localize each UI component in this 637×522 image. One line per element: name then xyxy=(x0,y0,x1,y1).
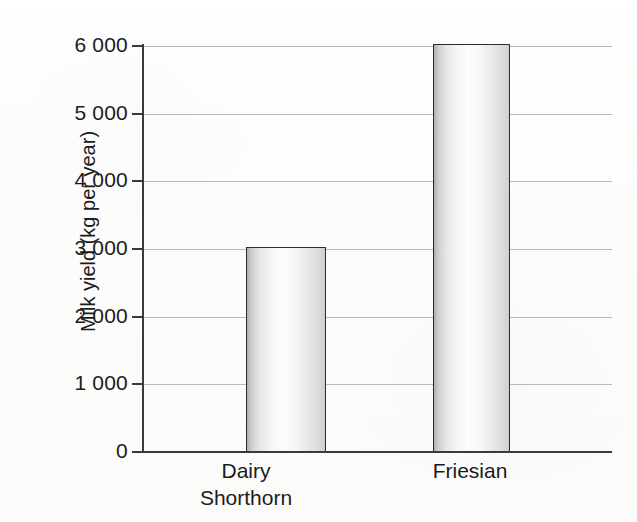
y-tick-mark-5000 xyxy=(132,113,143,115)
x-category-label-line-1: Friesian xyxy=(410,458,530,485)
x-category-label-line-1: Dairy xyxy=(186,458,306,485)
y-tick-mark-2000 xyxy=(132,316,143,318)
gridline-3000 xyxy=(143,249,612,250)
x-category-label-dairy-shorthorn: Dairy Shorthorn xyxy=(186,458,306,512)
x-axis-line xyxy=(142,451,612,453)
gridline-5000 xyxy=(143,114,612,115)
gridline-1000 xyxy=(143,384,612,385)
plot-area xyxy=(143,44,612,452)
y-tick-label-0: 0 xyxy=(18,439,128,463)
gridline-6000 xyxy=(143,46,612,47)
y-tick-mark-3000 xyxy=(132,248,143,250)
y-tick-mark-6000 xyxy=(132,45,143,47)
gridline-4000 xyxy=(143,181,612,182)
y-tick-label-3000: 3 000 xyxy=(18,236,128,260)
x-category-label-friesian: Friesian xyxy=(410,458,530,485)
y-tick-mark-1000 xyxy=(132,383,143,385)
bar-dairy-shorthorn xyxy=(246,247,326,452)
y-tick-label-5000: 5 000 xyxy=(18,101,128,125)
y-tick-label-4000: 4 000 xyxy=(18,168,128,192)
y-tick-label-1000: 1 000 xyxy=(18,371,128,395)
bar-friesian xyxy=(433,44,510,452)
chart-page: 6 000 5 000 4 000 3 000 2 000 1 000 0 Mi… xyxy=(0,0,637,522)
gridline-2000 xyxy=(143,317,612,318)
y-tick-label-2000: 2 000 xyxy=(18,304,128,328)
y-axis-title: Milk yield (kg per year) xyxy=(77,82,100,382)
y-tick-mark-0 xyxy=(132,451,143,453)
y-tick-label-6000: 6 000 xyxy=(18,33,128,57)
y-tick-mark-4000 xyxy=(132,180,143,182)
x-category-label-line-2: Shorthorn xyxy=(186,485,306,512)
